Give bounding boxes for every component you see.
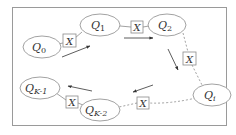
queue-ring-diagram: X X X X X Q0 Q1 Q2 Qi QK-2 QK-1 [0, 0, 236, 135]
x-label: X [138, 98, 147, 109]
x-label: X [65, 36, 74, 47]
x-label: X [132, 22, 141, 33]
x-label: X [67, 97, 76, 108]
x-label: X [185, 54, 194, 65]
